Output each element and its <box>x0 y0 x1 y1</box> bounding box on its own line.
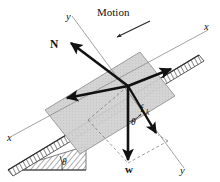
normal-force-label: N <box>50 38 59 50</box>
diagram-canvas: Motion N w f k x x y y θ θ <box>0 0 220 182</box>
y-axis-label-lower-right: y <box>179 165 185 176</box>
friction-force-symbol: f <box>140 102 144 114</box>
incline-angle-label: θ <box>62 157 67 167</box>
weight-label: w <box>125 163 133 175</box>
physics-free-body-diagram: Motion N w f k x x y y θ θ <box>0 0 220 182</box>
y-axis-label-upper: y <box>65 11 71 22</box>
weight-angle-label: θ <box>131 117 136 127</box>
x-axis-label-lower-left: x <box>6 132 12 143</box>
x-axis-label-upper-right: x <box>203 21 209 32</box>
motion-label: Motion <box>97 6 130 18</box>
